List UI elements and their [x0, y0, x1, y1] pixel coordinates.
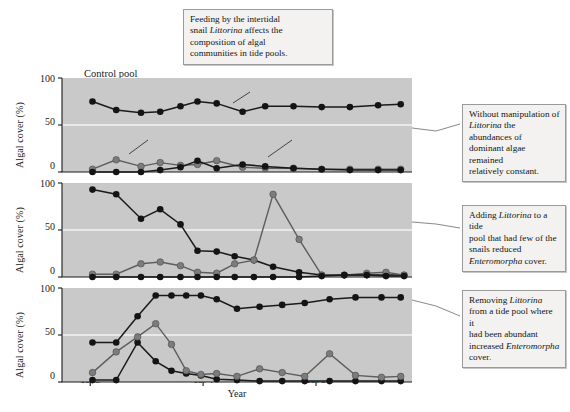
data-point-enteromorpha-littorina-removed: [152, 292, 159, 299]
series-line-chondrus-littorina-added: [93, 190, 405, 276]
data-point-ephemeral-algae-littorina-added: [251, 274, 258, 281]
enteromorpha-italic: Enteromorpha: [506, 341, 559, 351]
y-tick-50-panel-2: 50: [31, 221, 55, 232]
data-point-enteromorpha-littorina-removed: [352, 294, 359, 301]
note1-line-3: dominant algae remained: [469, 143, 560, 166]
data-point-ephemeral-algae-control-pool: [318, 166, 325, 173]
data-point-enteromorpha-littorina-removed: [198, 292, 205, 299]
data-point-ephemeral-algae-control-pool: [113, 157, 120, 164]
data-point-ephemeral-algae-littorina-removed: [279, 369, 286, 376]
figure-root: Feeding by the intertidal snail Littorin…: [0, 0, 570, 412]
data-point-chondrus-littorina-removed: [134, 339, 141, 346]
y-tick-0-panel-1: 0: [31, 160, 55, 171]
data-point-chondrus-littorina-removed: [113, 377, 120, 384]
series-line-ephemeral-algae-control-pool: [93, 160, 401, 169]
data-point-enteromorpha-control-pool: [113, 169, 120, 176]
x-tick-1973: 1973: [70, 374, 110, 385]
data-point-enteromorpha-control-pool: [138, 169, 145, 176]
figure-caption-box: Feeding by the intertidal snail Littorin…: [183, 9, 333, 65]
data-point-ephemeral-algae-control-pool: [347, 166, 354, 173]
data-point-chondrus-littorina-removed: [397, 378, 404, 385]
data-point-enteromorpha-control-pool: [194, 157, 201, 164]
data-point-chondrus-littorina-added: [364, 272, 371, 279]
data-point-chondrus-littorina-removed: [352, 378, 359, 385]
data-point-chondrus-littorina-removed: [256, 378, 263, 385]
data-point-ephemeral-algae-littorina-added: [231, 274, 238, 281]
data-point-ephemeral-algae-littorina-removed: [168, 341, 175, 348]
littorina-italic: Littorina: [210, 25, 243, 35]
data-point-enteromorpha-littorina-added: [89, 271, 96, 278]
data-point-ephemeral-algae-control-pool: [239, 164, 246, 171]
data-point-chondrus-littorina-added: [177, 221, 184, 228]
y-axis-title-panel-1: Algal cover (%): [14, 102, 25, 168]
data-point-ephemeral-algae-control-pool: [138, 163, 145, 170]
data-point-ephemeral-algae-littorina-added: [364, 272, 371, 279]
panel-title-control-pool: Control pool: [84, 68, 137, 79]
series-line-ephemeral-algae-littorina-added: [93, 275, 405, 277]
data-point-ephemeral-algae-littorina-added: [318, 273, 325, 280]
data-point-chondrus-control-pool: [318, 104, 325, 111]
data-point-chondrus-littorina-removed: [152, 358, 159, 365]
data-point-ephemeral-algae-littorina-removed: [352, 372, 359, 379]
data-point-chondrus-littorina-removed: [279, 378, 286, 385]
data-point-enteromorpha-littorina-added: [177, 262, 184, 269]
data-point-chondrus-control-pool: [89, 98, 96, 105]
data-point-chondrus-littorina-added: [138, 215, 145, 222]
data-point-enteromorpha-littorina-added: [157, 259, 164, 266]
x-tick-1975: 1975: [296, 374, 336, 385]
leader-note-1: [412, 124, 460, 131]
data-point-ephemeral-algae-littorina-removed: [152, 320, 159, 327]
annotation-box-removed: Removing Littorina from a tide pool wher…: [462, 290, 566, 368]
data-point-enteromorpha-littorina-removed: [134, 313, 141, 320]
data-point-ephemeral-algae-littorina-removed: [326, 351, 333, 358]
data-point-chondrus-littorina-removed: [168, 367, 175, 374]
leader-chondrus: [233, 92, 250, 103]
data-point-enteromorpha-control-pool: [89, 169, 96, 176]
data-point-enteromorpha-littorina-removed: [397, 294, 404, 301]
data-point-enteromorpha-littorina-removed: [326, 296, 333, 303]
data-point-ephemeral-algae-littorina-added: [194, 274, 201, 281]
leader-note-2: [412, 222, 460, 228]
y-tick-50-panel-3: 50: [31, 326, 55, 337]
data-point-ephemeral-algae-littorina-added: [177, 274, 184, 281]
series-line-enteromorpha-control-pool: [93, 161, 401, 172]
data-point-chondrus-control-pool: [397, 101, 404, 108]
data-point-ephemeral-algae-littorina-removed: [113, 349, 120, 356]
data-point-chondrus-control-pool: [239, 109, 246, 116]
leader-note-3: [412, 300, 460, 316]
data-point-ephemeral-algae-littorina-added: [341, 272, 348, 279]
data-point-chondrus-littorina-added: [296, 269, 303, 276]
data-point-enteromorpha-littorina-added: [318, 272, 325, 279]
data-point-enteromorpha-littorina-removed: [301, 300, 308, 307]
data-point-enteromorpha-littorina-added: [231, 261, 238, 268]
y-tick-100-panel-3: 100: [31, 283, 55, 294]
annotation-box-added: Adding Littorina to a tide pool that had…: [462, 205, 566, 272]
y-axis-title-panel-2: Algal cover (%): [14, 207, 25, 273]
note3-line-3: had been abundant: [469, 329, 560, 340]
data-point-chondrus-littorina-removed: [234, 377, 241, 384]
data-point-ephemeral-algae-littorina-added: [89, 274, 96, 281]
data-point-chondrus-control-pool: [347, 104, 354, 111]
data-point-enteromorpha-littorina-added: [270, 191, 277, 198]
data-point-enteromorpha-littorina-added: [194, 269, 201, 276]
data-point-chondrus-littorina-added: [113, 191, 120, 198]
series-line-enteromorpha-littorina-added: [93, 194, 405, 275]
data-point-enteromorpha-littorina-removed: [168, 292, 175, 299]
data-point-chondrus-littorina-added: [213, 248, 220, 255]
data-point-chondrus-littorina-added: [194, 247, 201, 254]
caption-line-3: composition of algal: [190, 37, 327, 48]
note3-line-5: cover.: [469, 352, 560, 363]
note2-line-4: Enteromorpha cover.: [469, 256, 560, 267]
data-point-ephemeral-algae-control-pool: [157, 159, 164, 166]
littorina-italic: Littorina: [499, 210, 532, 220]
data-point-chondrus-control-pool: [290, 103, 297, 110]
data-point-enteromorpha-littorina-added: [113, 271, 120, 278]
data-point-enteromorpha-littorina-added: [383, 269, 390, 276]
series-label-enteromorpha: Enteromorpha: [293, 128, 349, 139]
littorina-italic: Littorina: [469, 120, 502, 130]
leader-enteromorpha: [268, 140, 292, 157]
y-tick-100-panel-1: 100: [31, 73, 55, 84]
data-point-ephemeral-algae-littorina-added: [138, 274, 145, 281]
data-point-enteromorpha-control-pool: [397, 167, 404, 174]
data-point-enteromorpha-littorina-added: [364, 270, 371, 277]
